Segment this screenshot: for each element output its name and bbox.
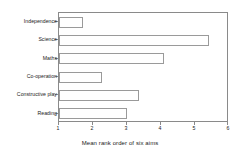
bar-reading [59, 108, 127, 119]
y-axis-label-reading: Reading [38, 110, 57, 116]
bar-chart: Independence Science Maths Co-operation … [0, 0, 240, 159]
bar-row [59, 13, 227, 31]
plot-area [58, 12, 228, 122]
bar-row [59, 105, 227, 123]
y-axis-label-independence: Independence [24, 18, 57, 24]
bar-constructive-play [59, 90, 139, 101]
x-axis-tick-label: 5 [193, 125, 196, 132]
bar-row [59, 50, 227, 68]
bar-maths [59, 53, 164, 64]
y-axis-label-constructive-play: Constructive play [17, 91, 57, 97]
bar-science [59, 35, 209, 46]
x-axis-title: Mean rank order of six aims [0, 140, 240, 146]
bar-row [59, 86, 227, 104]
bar-row [59, 31, 227, 49]
y-axis-label-science: Science [38, 36, 57, 42]
x-axis-tick-label: 6 [227, 125, 230, 132]
x-axis-tick-label: 4 [159, 125, 162, 132]
bar-co-operation [59, 72, 102, 83]
x-axis-tick-label: 1 [57, 125, 60, 132]
x-axis-tick-label: 3 [125, 125, 128, 132]
bar-row [59, 68, 227, 86]
y-axis-label-co-operation: Co-operation [27, 73, 57, 79]
bar-independence [59, 17, 83, 28]
x-axis-tick-label: 2 [91, 125, 94, 132]
y-axis-label-maths: Maths [43, 55, 57, 61]
